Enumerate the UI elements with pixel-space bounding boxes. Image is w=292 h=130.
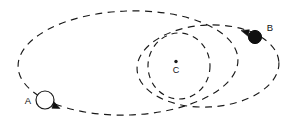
body-a-marker bbox=[36, 91, 54, 109]
orbit-diagram: C A B bbox=[0, 0, 292, 130]
body-b-label: B bbox=[267, 22, 273, 33]
barycenter-dot-icon bbox=[174, 60, 177, 63]
orbit-diagram-canvas: C A B bbox=[0, 0, 292, 130]
body-a-label: A bbox=[25, 95, 32, 106]
body-b-marker bbox=[248, 30, 261, 43]
barycenter-label: C bbox=[173, 65, 180, 75]
